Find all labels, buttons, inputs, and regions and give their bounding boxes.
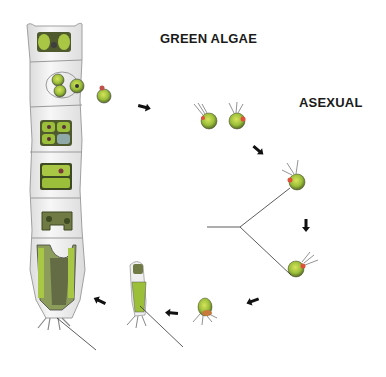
leader-lines (57, 188, 291, 350)
algae-life-cycle-diagram (0, 0, 386, 377)
zoospore-swimming (282, 160, 305, 190)
zoospore-settling (288, 252, 318, 277)
filament-cell-1 (37, 32, 71, 52)
arrow-right-icon (137, 102, 152, 113)
filament-cell-4 (40, 163, 72, 190)
arrow-down-right-icon (251, 143, 266, 157)
arrow-left-icon (165, 308, 179, 317)
released-zoospore (97, 86, 111, 104)
zoospore-attached (193, 298, 217, 325)
cycle-arrows (92, 102, 310, 318)
young-filament (127, 262, 146, 329)
filament (27, 23, 85, 330)
filament-cell-3 (40, 120, 72, 146)
zoospore-pair (194, 102, 246, 129)
arrow-up-left-icon (92, 294, 107, 307)
arrow-down-left-icon (245, 295, 260, 307)
arrow-down-icon (302, 219, 310, 232)
